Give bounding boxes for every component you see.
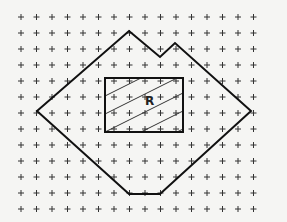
grid-diagram: R bbox=[0, 0, 287, 222]
region-label: R bbox=[145, 94, 154, 108]
diagram-canvas bbox=[0, 0, 287, 222]
